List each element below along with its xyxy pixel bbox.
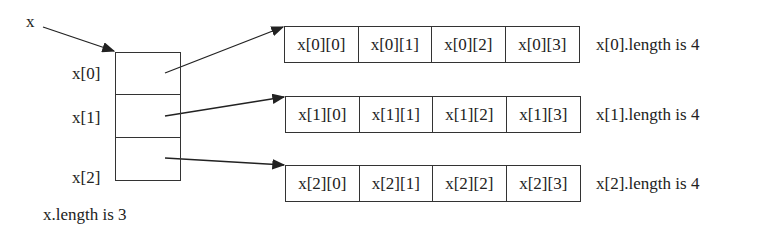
outer-length-label: x.length is 3 [43, 205, 127, 225]
outer-label-1: x[1] [72, 108, 100, 128]
cell: x[0][3] [506, 27, 580, 62]
cell: x[2][2] [433, 166, 507, 201]
cell: x[1][1] [360, 97, 434, 132]
cell: x[1][2] [433, 97, 507, 132]
arrow-x-to-array [43, 27, 114, 51]
cell: x[1][0] [286, 97, 360, 132]
arrow-row-1 [165, 97, 284, 116]
cell: x[2][0] [286, 166, 360, 201]
row-1-length-label: x[1].length is 4 [596, 105, 699, 125]
row-0: x[0][0] x[0][1] x[0][2] x[0][3] [284, 26, 580, 63]
outer-label-2: x[2] [72, 168, 100, 188]
outer-array [115, 52, 181, 181]
outer-label-0: x[0] [72, 64, 100, 84]
cell: x[0][0] [285, 27, 359, 62]
cell: x[1][3] [507, 97, 581, 132]
arrow-row-0 [165, 27, 283, 73]
outer-slot-2 [116, 138, 180, 180]
cell: x[2][3] [507, 166, 581, 201]
cell: x[0][2] [432, 27, 506, 62]
outer-slot-0 [116, 53, 180, 95]
cell: x[0][1] [359, 27, 433, 62]
arrow-row-2 [165, 158, 284, 165]
variable-label: x [26, 12, 35, 32]
outer-slot-1 [116, 95, 180, 137]
row-0-length-label: x[0].length is 4 [596, 35, 699, 55]
row-2-length-label: x[2].length is 4 [596, 174, 699, 194]
row-2: x[2][0] x[2][1] x[2][2] x[2][3] [285, 165, 581, 202]
cell: x[2][1] [360, 166, 434, 201]
row-1: x[1][0] x[1][1] x[1][2] x[1][3] [285, 96, 581, 133]
